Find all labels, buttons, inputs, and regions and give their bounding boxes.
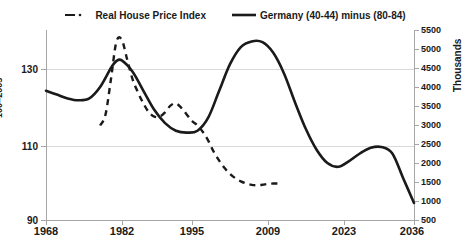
series-line-real-house-price-index (100, 37, 279, 185)
chart-curves (0, 0, 471, 247)
series-line-germany-cohort-gap (46, 41, 414, 203)
chart-container: Real House Price Index Germany (40-44) m… (0, 0, 471, 247)
